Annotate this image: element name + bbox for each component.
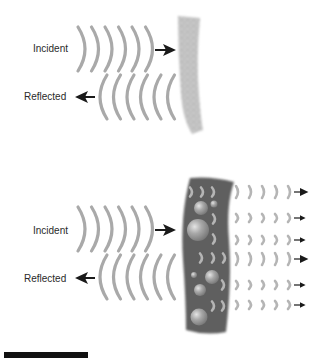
reflected-arrow-top xyxy=(75,91,95,103)
transmitted-wavefront xyxy=(262,186,264,198)
reflected-wavefront xyxy=(168,255,175,299)
transmitted-wavefront xyxy=(275,236,277,244)
reflected-wavefront xyxy=(141,75,148,119)
transmitted-wavefront xyxy=(275,214,277,222)
transmitted-arrow-head xyxy=(300,215,306,221)
transmitted-wavefront xyxy=(288,236,290,244)
reflected-wavefront xyxy=(141,255,148,299)
transmitted-wavefront xyxy=(249,214,251,222)
incident-wavefront xyxy=(105,27,112,71)
transmitted-wavefront xyxy=(288,186,290,198)
incident-arrow-bottom xyxy=(155,224,176,236)
transmitted-wavefront xyxy=(288,281,290,289)
incident-wavefront xyxy=(78,27,85,71)
reflected-wavefront xyxy=(154,255,161,299)
transmitted-wavefront xyxy=(249,281,251,289)
reflected-wavefront xyxy=(100,255,107,299)
incident-wavefront xyxy=(132,207,139,251)
transmitted-wavefront xyxy=(262,253,264,265)
incident-wavefront xyxy=(92,207,99,251)
porous-absorber xyxy=(182,178,234,334)
incident-wavefront xyxy=(92,27,99,71)
transmitted-wavefront xyxy=(288,301,290,309)
incident-waves-bottom xyxy=(78,207,153,251)
transmitted-wavefront xyxy=(236,186,238,198)
transmitted-arrow-head xyxy=(300,188,308,196)
bubble xyxy=(194,201,208,215)
transmitted-wavefront xyxy=(236,253,238,265)
transmitted-arrow-head xyxy=(300,237,306,243)
incident-wavefront xyxy=(146,27,153,71)
transmitted-wavefront xyxy=(249,301,251,309)
transmitted-wavefront xyxy=(236,281,238,289)
incident-wavefront xyxy=(119,27,126,71)
transmitted-arrow-head xyxy=(300,255,308,263)
transmitted-arrow-head xyxy=(300,282,306,288)
transmitted-wavefront xyxy=(262,301,264,309)
bubble xyxy=(205,270,219,284)
reflected-label-top: Reflected xyxy=(24,91,66,102)
bottom-panel: Incident Reflected xyxy=(24,178,308,334)
transmitted-wavefront xyxy=(236,236,238,244)
incident-wavefront xyxy=(146,207,153,251)
incident-label-bottom: Incident xyxy=(33,225,68,236)
reflected-label-bottom: Reflected xyxy=(24,273,66,284)
incident-label-top: Incident xyxy=(33,43,68,54)
transmitted-wavefront xyxy=(249,186,251,198)
transmitted-wavefront xyxy=(236,214,238,222)
incident-wavefront xyxy=(105,207,112,251)
incident-wavefront xyxy=(78,207,85,251)
reflected-wavefront xyxy=(154,75,161,119)
reflected-wavefront xyxy=(114,255,121,299)
incident-waves-top xyxy=(78,27,153,71)
transmitted-wavefront xyxy=(249,236,251,244)
transmitted-wavefront xyxy=(262,214,264,222)
transmitted-wavefront xyxy=(262,281,264,289)
reflected-wavefront xyxy=(114,75,121,119)
transmitted-wavefront xyxy=(236,301,238,309)
reflected-waves-top xyxy=(100,75,175,119)
transmitted-waves xyxy=(236,186,308,309)
incident-wavefront xyxy=(132,27,139,71)
bubble xyxy=(211,201,218,208)
transmitted-arrow-head xyxy=(300,302,306,308)
transmitted-wavefront xyxy=(288,253,290,265)
bubble xyxy=(194,284,206,296)
reflected-waves-bottom xyxy=(100,255,175,299)
rough-wall xyxy=(178,16,203,134)
reflected-wavefront xyxy=(127,75,134,119)
transmitted-wavefront xyxy=(275,281,277,289)
caption-marker xyxy=(4,352,88,358)
transmitted-wavefront xyxy=(275,301,277,309)
reflected-wavefront xyxy=(127,255,134,299)
reflected-wavefront xyxy=(168,75,175,119)
transmitted-wavefront xyxy=(275,253,277,265)
transmitted-wavefront xyxy=(288,214,290,222)
bubble xyxy=(187,219,209,241)
transmitted-wavefront xyxy=(275,186,277,198)
bubble xyxy=(191,272,197,278)
reflected-wavefront xyxy=(100,75,107,119)
incident-arrow-top xyxy=(155,44,176,56)
transmitted-wavefront xyxy=(262,236,264,244)
reflected-arrow-bottom xyxy=(75,272,95,284)
top-panel: Incident Reflected xyxy=(24,16,203,134)
transmitted-wavefront xyxy=(249,253,251,265)
bubble xyxy=(191,309,208,326)
incident-wavefront xyxy=(119,207,126,251)
